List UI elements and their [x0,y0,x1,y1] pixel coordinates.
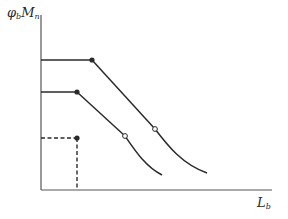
dashed-reference-dot [74,135,79,140]
x-label-l: L [257,195,266,210]
upper-inelastic-limit-circle [153,127,158,132]
upper-linear-segment [92,60,155,129]
y-label-m: M [21,5,34,20]
upper-elastic-segment [155,129,207,173]
lower-inelastic-limit-circle [123,134,128,139]
dashed-reference-lines [41,138,77,190]
upper-capacity-curve [41,60,207,173]
x-label-sub-b: b [266,202,271,211]
y-label-phi: φ [7,5,16,20]
x-axis-label: Lb [257,195,271,211]
moment-capacity-diagram [0,0,288,219]
lower-plastic-limit-dot [74,89,79,94]
y-axis-label: φbMn [7,5,40,21]
y-label-sub-n: n [35,12,40,21]
lower-capacity-curve [41,92,162,175]
upper-plastic-limit-dot [89,57,94,62]
lower-elastic-segment [125,136,162,175]
lower-linear-segment [77,92,125,136]
